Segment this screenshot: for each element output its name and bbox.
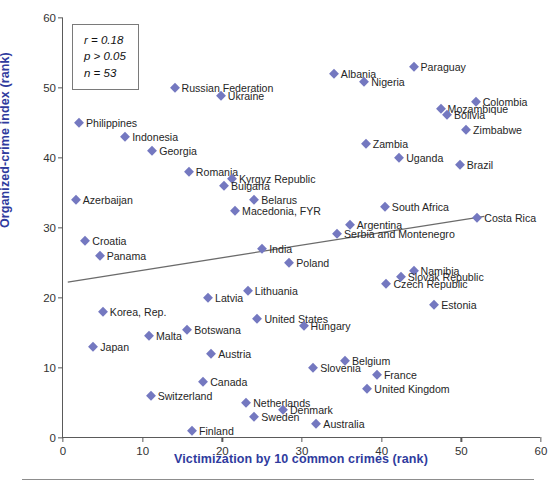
- data-point-label: Korea, Rep.: [110, 306, 167, 318]
- data-point-marker: [284, 258, 294, 268]
- data-point-marker: [429, 300, 439, 310]
- data-point-marker: [230, 206, 240, 216]
- data-point-marker: [206, 349, 216, 359]
- data-point-label: Zambia: [373, 138, 408, 150]
- stat-p: p > 0.05: [84, 48, 126, 64]
- data-point-marker: [169, 83, 179, 93]
- data-point-label: South Africa: [392, 201, 449, 213]
- data-point-marker: [308, 363, 318, 373]
- data-point-label: France: [384, 369, 417, 381]
- data-point-marker: [203, 293, 213, 303]
- data-point-label: Zimbabwe: [473, 124, 522, 136]
- data-point-label: Switzerland: [158, 390, 213, 402]
- data-point-marker: [88, 342, 98, 352]
- y-tick-label: 10: [43, 362, 63, 374]
- y-tick-label: 60: [43, 12, 63, 24]
- data-point-label: Panama: [107, 250, 146, 262]
- data-point-label: Croatia: [92, 235, 126, 247]
- data-point-label: Brazil: [467, 159, 494, 171]
- data-point-marker: [144, 331, 154, 341]
- data-point-marker: [120, 132, 130, 142]
- data-point-marker: [408, 62, 418, 72]
- data-point-marker: [332, 228, 342, 238]
- data-point-label: Poland: [296, 257, 329, 269]
- data-point-label: Lithuania: [255, 285, 298, 297]
- data-point-marker: [472, 213, 482, 223]
- data-point-marker: [380, 202, 390, 212]
- data-point-marker: [94, 251, 104, 261]
- data-point-label: Indonesia: [132, 131, 178, 143]
- data-point-marker: [311, 419, 321, 429]
- data-point-label: Japan: [100, 341, 129, 353]
- data-point-label: Bolivia: [454, 109, 485, 121]
- data-point-marker: [461, 125, 471, 135]
- data-point-marker: [381, 279, 391, 289]
- data-point-label: Costa Rica: [484, 212, 536, 224]
- data-point-label: Latvia: [215, 292, 243, 304]
- data-point-label: Hungary: [311, 320, 351, 332]
- data-point-marker: [360, 139, 370, 149]
- data-point-marker: [243, 286, 253, 296]
- data-point-label: Canada: [210, 376, 247, 388]
- data-point-marker: [80, 235, 90, 245]
- data-point-marker: [98, 307, 108, 317]
- data-point-marker: [74, 118, 84, 128]
- y-tick-label: 40: [43, 152, 63, 164]
- data-point-marker: [198, 377, 208, 387]
- data-point-label: Philippines: [86, 117, 137, 129]
- data-point-marker: [394, 153, 404, 163]
- data-point-marker: [184, 167, 194, 177]
- y-tick-label: 20: [43, 292, 63, 304]
- data-point-label: Nigeria: [371, 76, 405, 88]
- data-point-marker: [187, 426, 197, 436]
- stat-r: r = 0.18: [84, 32, 126, 48]
- data-point-label: Uganda: [406, 152, 443, 164]
- data-point-marker: [241, 398, 251, 408]
- data-point-label: Malta: [156, 330, 182, 342]
- data-point-label: Slovenia: [320, 362, 361, 374]
- y-tick-label: 30: [43, 222, 63, 234]
- data-point-label: Bulgaria: [231, 180, 270, 192]
- data-point-label: Georgia: [159, 145, 197, 157]
- data-point-label: Macedonia, FYR: [242, 205, 321, 217]
- data-point-label: Serbia and Montenegro: [344, 228, 455, 240]
- data-point-label: Botswana: [194, 324, 241, 336]
- stat-n: n = 53: [84, 65, 126, 81]
- data-point-marker: [362, 384, 372, 394]
- data-point-marker: [219, 181, 229, 191]
- data-point-marker: [145, 391, 155, 401]
- data-point-marker: [252, 314, 262, 324]
- data-point-label: United Kingdom: [374, 383, 449, 395]
- data-point-label: Paraguay: [421, 61, 466, 73]
- y-axis-title: Organized-crime index (rank): [0, 52, 12, 228]
- data-point-label: Australia: [323, 418, 364, 430]
- data-point-label: Belarus: [261, 194, 297, 206]
- data-point-label: Ukraine: [228, 90, 265, 102]
- caption-divider: [22, 479, 534, 480]
- data-point-label: Finland: [199, 425, 234, 437]
- data-point-marker: [147, 146, 157, 156]
- data-point-label: Austria: [218, 348, 251, 360]
- data-point-label: Azerbaijan: [83, 194, 133, 206]
- data-point-marker: [249, 195, 259, 205]
- data-point-marker: [455, 160, 465, 170]
- data-point-marker: [71, 195, 81, 205]
- figure-scatter-plot: ParaguayAlbaniaNigeriaRussian Federation…: [0, 0, 556, 494]
- data-point-label: Sweden: [261, 411, 299, 423]
- data-point-label: Estonia: [441, 299, 476, 311]
- data-point-marker: [372, 370, 382, 380]
- data-point-marker: [182, 325, 192, 335]
- data-point-marker: [249, 412, 259, 422]
- statistics-annotation-box: r = 0.18 p > 0.05 n = 53: [72, 24, 139, 90]
- y-tick-label: 50: [43, 82, 63, 94]
- x-axis-title: Victimization by 10 common crimes (rank): [62, 452, 540, 466]
- data-point-marker: [257, 244, 267, 254]
- data-point-label: Czech Republic: [393, 278, 467, 290]
- data-point-label: India: [269, 243, 292, 255]
- data-point-marker: [329, 69, 339, 79]
